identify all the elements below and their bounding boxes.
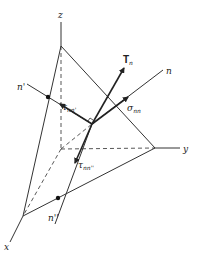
traction-label: Tn [123,54,133,66]
traction-vector-arrow [92,68,124,124]
n-double-prime-label: n'' [48,213,59,223]
tau-nn-double-prime-arrow [75,124,92,163]
sigma-nn-label: σnn [127,103,141,114]
z-axis-label: z [57,10,63,20]
x-axis [10,216,23,242]
right-angle-mark [88,118,93,121]
y-axis-label: y [182,144,189,154]
n-double-prime-point [56,196,60,200]
n-prime-label: n' [17,82,25,92]
sigma-nn-arrow [92,97,128,124]
n-prime-point [46,95,50,99]
tau-nn-prime-label: τnn' [62,102,77,113]
normal-n-label: n [166,66,172,76]
tau-nn-double-prime-label: τnn'' [78,160,94,171]
x-axis-label: x [4,242,9,252]
stress-tetrahedron-diagram: z y x n Tn n' n'' σnn τnn' τnn'' [0,0,199,253]
